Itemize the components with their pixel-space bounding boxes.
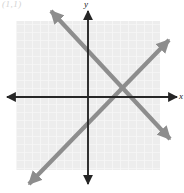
- x-axis-label: x: [179, 92, 183, 101]
- graph-figure: (1,1) y x: [0, 0, 184, 193]
- coordinate-plane-svg: [0, 0, 184, 193]
- y-axis-label: y: [84, 0, 88, 9]
